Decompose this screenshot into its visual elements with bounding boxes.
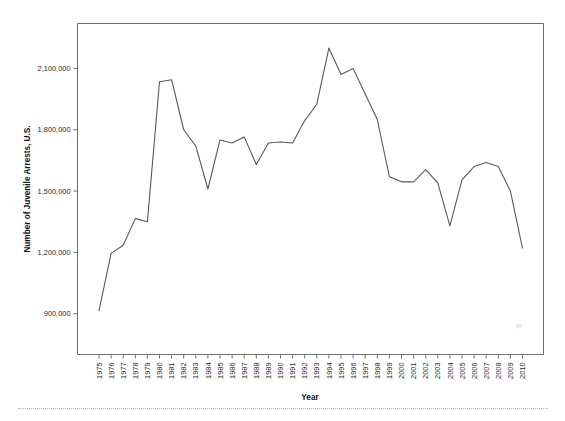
x-tick-label: 1997 (361, 363, 370, 379)
series-polyline (99, 48, 523, 311)
y-tick-label: 1,200,000 (38, 248, 71, 257)
x-tick-label: 2007 (482, 363, 491, 379)
x-tick-label: 1993 (312, 363, 321, 379)
x-tick-label: 1981 (167, 363, 176, 379)
x-axis-title: Year (301, 393, 319, 402)
x-tick-label: 2009 (506, 363, 515, 379)
x-tick-label: 1988 (252, 363, 261, 379)
y-axis-title: Number of Juvenile Arrests, U.S. (23, 125, 32, 252)
x-tick-label: 1992 (300, 363, 309, 379)
y-tick-label: 1,800,000 (38, 125, 71, 134)
data-series-line (99, 48, 523, 311)
x-tick-label: 1987 (240, 363, 249, 379)
x-tick-label: 2003 (433, 363, 442, 379)
x-axis-tick-labels: 1975197619771978197919801981198219831984… (95, 363, 527, 379)
x-tick-label: 2001 (409, 363, 418, 379)
plot-frame (78, 24, 544, 355)
x-tick-label: 1995 (337, 363, 346, 379)
x-tick-label: 1999 (385, 363, 394, 379)
x-tick-label: 1976 (107, 363, 116, 379)
x-tick-label: 1983 (191, 363, 200, 379)
scan-artifact-smudge (516, 324, 522, 328)
y-tick-label: 900,000 (44, 309, 71, 318)
x-tick-label: 2000 (397, 363, 406, 379)
juvenile-arrests-line-chart: 900,0001,200,0001,500,0001,800,0002,100,… (0, 0, 565, 421)
x-tick-label: 1977 (119, 363, 128, 379)
x-tick-label: 2006 (470, 363, 479, 379)
x-tick-label: 1979 (143, 363, 152, 379)
x-tick-label: 1985 (216, 363, 225, 379)
x-tick-label: 1990 (276, 363, 285, 379)
x-tick-label: 2010 (518, 363, 527, 379)
x-tick-label: 1996 (349, 363, 358, 379)
x-tick-label: 2004 (446, 363, 455, 379)
y-tick-label: 2,100,000 (38, 64, 71, 73)
x-tick-label: 1978 (131, 363, 140, 379)
x-tick-label: 1975 (95, 363, 104, 379)
page-bottom-rule (18, 408, 548, 409)
y-axis-tick-labels: 900,0001,200,0001,500,0001,800,0002,100,… (38, 64, 71, 318)
x-tick-label: 1984 (204, 363, 213, 379)
x-tick-label: 1982 (179, 363, 188, 379)
x-axis-ticks (99, 355, 523, 359)
x-tick-label: 1991 (288, 363, 297, 379)
x-tick-label: 2002 (421, 363, 430, 379)
x-tick-label: 1980 (155, 363, 164, 379)
y-axis-ticks (74, 68, 78, 313)
chart-figure: 900,0001,200,0001,500,0001,800,0002,100,… (0, 0, 565, 421)
y-tick-label: 1,500,000 (38, 187, 71, 196)
x-tick-label: 1994 (325, 363, 334, 379)
x-tick-label: 2008 (494, 363, 503, 379)
x-tick-label: 1998 (373, 363, 382, 379)
x-tick-label: 2005 (458, 363, 467, 379)
x-tick-label: 1986 (228, 363, 237, 379)
x-tick-label: 1989 (264, 363, 273, 379)
